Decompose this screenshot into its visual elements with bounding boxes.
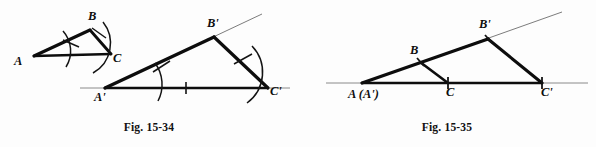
arc-at-A (63, 31, 71, 67)
tick-arc-A (63, 40, 79, 47)
arc-at-C (93, 22, 110, 73)
vertex-label-C-prime: C' (270, 85, 282, 98)
vertex-label-B-prime-right: B' (479, 18, 491, 31)
figure-15-34: A B C A' B' C' Fig. 15-34 (0, 0, 298, 147)
vertex-label-C-prime-right: C' (541, 86, 553, 99)
figure-caption-15-34: Fig. 15-34 (0, 121, 298, 133)
figure-15-35: A (A') B C B' C' Fig. 15-35 (298, 0, 596, 147)
segment-AB (34, 30, 90, 56)
figure-caption-15-35: Fig. 15-35 (298, 121, 596, 133)
vertex-label-C: C (113, 52, 121, 65)
segment-AC (34, 54, 111, 56)
segment-B-prime-C-prime (214, 37, 268, 88)
vertex-label-A: A (14, 55, 22, 68)
segment-A-to-B-prime (362, 39, 488, 83)
segment-A-prime-B-prime (105, 37, 214, 88)
vertex-label-A-and-A-prime: A (A') (348, 88, 379, 101)
vertex-label-B-right: B (410, 44, 418, 57)
vertex-label-B-prime: B' (207, 17, 219, 30)
segment-B-prime-C-prime-right (488, 39, 542, 83)
figure-page: A B C A' B' C' Fig. 15-34 (0, 0, 596, 147)
vertex-label-A-prime: A' (94, 91, 106, 104)
vertex-label-B: B (88, 10, 96, 23)
vertex-label-C-right: C (446, 86, 454, 99)
